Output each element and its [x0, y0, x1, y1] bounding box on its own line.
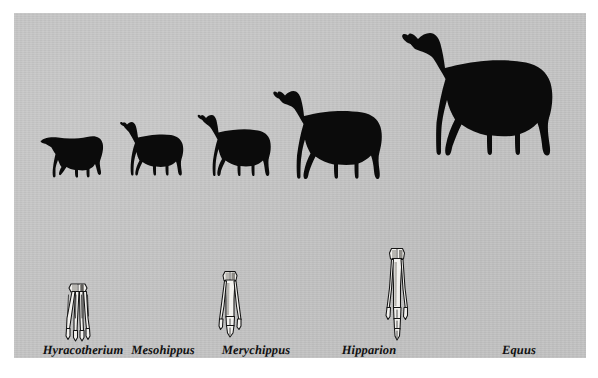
- figure-root: Hyracotherium: [0, 0, 598, 378]
- stage-equus: Equus: [386, 13, 586, 358]
- hipparion-silhouette: [268, 86, 388, 180]
- hyracotherium-foot-bones: [60, 281, 96, 343]
- hyracotherium-silhouette: [40, 126, 106, 178]
- taxon-label-equus: Equus: [434, 343, 586, 358]
- mesohippus-silhouette: [116, 118, 188, 178]
- equus-silhouette: [396, 27, 561, 162]
- figure-panel: Hyracotherium: [14, 13, 586, 358]
